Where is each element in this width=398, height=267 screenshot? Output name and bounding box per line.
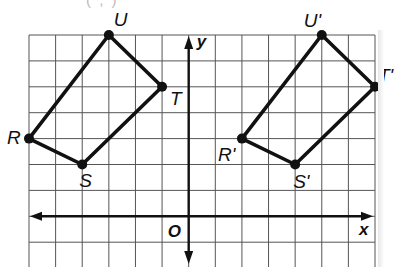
polygon-edges (242, 35, 375, 165)
vertex-point (317, 30, 327, 40)
vertex-point (157, 82, 167, 92)
polygon-edges (29, 35, 162, 165)
vertex-label: R (7, 127, 21, 148)
vertex-point (104, 30, 114, 40)
vertex-label: U' (304, 10, 323, 31)
vertex-point (24, 134, 34, 144)
origin-label: O (168, 222, 181, 241)
vertex-label: S' (293, 171, 311, 192)
vertex-label: R' (218, 144, 237, 165)
vertex-point (237, 134, 247, 144)
vertex-label: U (114, 9, 128, 30)
coordinate-grid: RSTUR'S'T'U' x y O (0, 0, 398, 267)
vertex-point (77, 160, 87, 170)
y-axis-arrow-down (184, 251, 193, 264)
page-shadow (378, 30, 384, 267)
figure-rstu: RSTU (7, 9, 183, 191)
coordinate-plane-diagram: ( , ) RSTUR'S'T'U' x y O (0, 0, 398, 267)
x-axis-arrow-left (30, 212, 42, 221)
x-axis-label: x (358, 220, 370, 239)
vertex-label: S (79, 170, 92, 191)
vertex-point (290, 160, 300, 170)
vertex-label: T (170, 88, 183, 109)
y-axis-label: y (196, 32, 208, 51)
cropped-caption: ( , ) (86, 0, 119, 8)
y-axis-arrow-up (184, 36, 193, 49)
